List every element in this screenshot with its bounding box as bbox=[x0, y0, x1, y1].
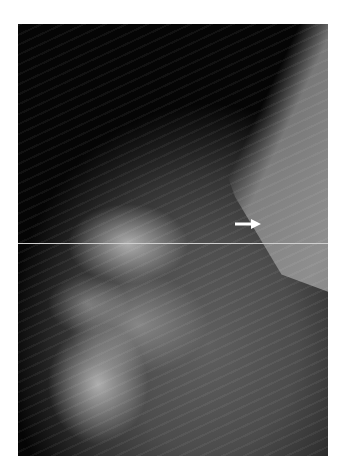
arrow-right-icon bbox=[235, 219, 261, 229]
scan-artifact-line bbox=[18, 243, 328, 244]
tissue-strands bbox=[18, 24, 328, 456]
mammogram-image bbox=[18, 24, 328, 456]
